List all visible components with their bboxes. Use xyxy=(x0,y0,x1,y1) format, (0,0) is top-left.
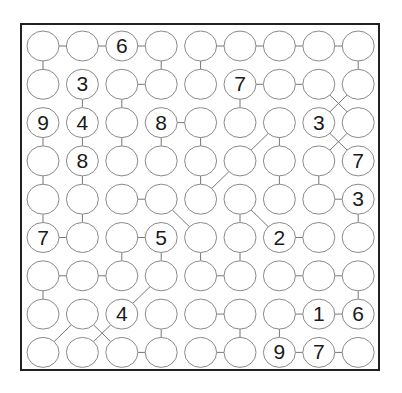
cell-circle[interactable] xyxy=(224,31,256,61)
cell-circle[interactable] xyxy=(106,146,138,176)
cell-circle[interactable] xyxy=(185,31,217,61)
cell-circle[interactable] xyxy=(66,69,98,99)
cell-circle[interactable] xyxy=(342,31,374,61)
cell-circle[interactable] xyxy=(263,146,295,176)
cell-circle[interactable] xyxy=(342,184,374,214)
cell-circle[interactable] xyxy=(185,337,217,367)
cell-circle[interactable] xyxy=(106,108,138,138)
cell-circle[interactable] xyxy=(185,299,217,329)
cell-circle[interactable] xyxy=(145,69,177,99)
cell-circle[interactable] xyxy=(27,337,59,367)
cell-circle[interactable] xyxy=(303,146,335,176)
cell-circle[interactable] xyxy=(342,108,374,138)
cell-circle[interactable] xyxy=(263,108,295,138)
cell-circle[interactable] xyxy=(263,184,295,214)
cell-circle[interactable] xyxy=(145,184,177,214)
cell-circle[interactable] xyxy=(303,337,335,367)
cell-circle[interactable] xyxy=(303,108,335,138)
cell-circle[interactable] xyxy=(263,337,295,367)
cell-circle[interactable] xyxy=(185,223,217,253)
link-line xyxy=(172,210,189,227)
cell-circle[interactable] xyxy=(66,146,98,176)
cell-circle[interactable] xyxy=(106,261,138,291)
cell-circle[interactable] xyxy=(342,69,374,99)
cell-circle[interactable] xyxy=(185,261,217,291)
cell-circle[interactable] xyxy=(185,69,217,99)
link-line xyxy=(251,133,268,150)
cell-circle[interactable] xyxy=(224,299,256,329)
cell-circle[interactable] xyxy=(224,69,256,99)
cell-circle[interactable] xyxy=(27,108,59,138)
cell-circle[interactable] xyxy=(27,31,59,61)
cell-circle[interactable] xyxy=(27,261,59,291)
link-line xyxy=(133,287,150,304)
cell-circle[interactable] xyxy=(303,69,335,99)
cell-circle[interactable] xyxy=(106,69,138,99)
cell-circle[interactable] xyxy=(66,337,98,367)
board-lines xyxy=(22,25,378,369)
cell-circle[interactable] xyxy=(66,261,98,291)
cell-circle[interactable] xyxy=(185,184,217,214)
cell-circle[interactable] xyxy=(224,108,256,138)
cell-circle[interactable] xyxy=(145,31,177,61)
cell-circle[interactable] xyxy=(224,337,256,367)
cell-circle[interactable] xyxy=(224,184,256,214)
cell-circle[interactable] xyxy=(106,223,138,253)
cell-circle[interactable] xyxy=(145,146,177,176)
cell-circle[interactable] xyxy=(263,261,295,291)
cell-circle[interactable] xyxy=(342,337,374,367)
cell-circle[interactable] xyxy=(66,31,98,61)
cell-circle[interactable] xyxy=(224,146,256,176)
cell-circle[interactable] xyxy=(106,337,138,367)
cell-circle[interactable] xyxy=(303,261,335,291)
link-line xyxy=(54,325,71,342)
cell-circle[interactable] xyxy=(27,184,59,214)
cell-circle[interactable] xyxy=(27,146,59,176)
cell-circle[interactable] xyxy=(145,299,177,329)
cell-circle[interactable] xyxy=(263,31,295,61)
cell-circle[interactable] xyxy=(66,184,98,214)
cell-circle[interactable] xyxy=(185,146,217,176)
link-line xyxy=(212,172,229,189)
cell-circle[interactable] xyxy=(185,108,217,138)
cell-circle[interactable] xyxy=(263,223,295,253)
cell-circle[interactable] xyxy=(27,69,59,99)
cell-circle[interactable] xyxy=(224,261,256,291)
cell-circle[interactable] xyxy=(66,108,98,138)
cell-circle[interactable] xyxy=(145,261,177,291)
cell-circle[interactable] xyxy=(27,299,59,329)
cell-circle[interactable] xyxy=(66,299,98,329)
cell-circle[interactable] xyxy=(303,299,335,329)
cell-circle[interactable] xyxy=(263,69,295,99)
cell-circle[interactable] xyxy=(106,299,138,329)
cell-circle[interactable] xyxy=(224,223,256,253)
cell-circle[interactable] xyxy=(106,31,138,61)
cell-circle[interactable] xyxy=(66,223,98,253)
cell-circle[interactable] xyxy=(303,184,335,214)
cell-circle[interactable] xyxy=(303,31,335,61)
cell-circle[interactable] xyxy=(106,184,138,214)
cell-circle[interactable] xyxy=(303,223,335,253)
cell-circle[interactable] xyxy=(342,223,374,253)
cell-circle[interactable] xyxy=(342,146,374,176)
link-line xyxy=(251,210,268,227)
puzzle-board: 637948387375241697 xyxy=(20,23,380,371)
cell-circle[interactable] xyxy=(342,261,374,291)
cell-circle[interactable] xyxy=(145,223,177,253)
cell-circle[interactable] xyxy=(145,337,177,367)
cell-circle[interactable] xyxy=(27,223,59,253)
cell-circle[interactable] xyxy=(342,299,374,329)
cell-circle[interactable] xyxy=(145,108,177,138)
cell-circle[interactable] xyxy=(263,299,295,329)
